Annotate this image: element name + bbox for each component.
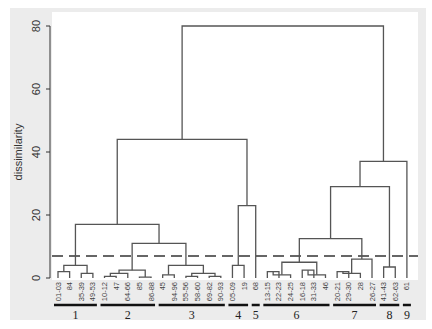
svg-text:85: 85 [135,282,144,290]
svg-text:47: 47 [112,282,121,290]
svg-text:20: 20 [30,209,42,221]
svg-text:20-21: 20-21 [333,282,342,301]
svg-text:46: 46 [321,282,330,290]
svg-text:55-56: 55-56 [181,282,190,301]
svg-text:40: 40 [30,146,42,158]
svg-text:58-60: 58-60 [193,282,202,301]
svg-text:35-39: 35-39 [77,282,86,301]
svg-text:84: 84 [65,282,74,290]
svg-text:28: 28 [356,282,365,290]
svg-text:1: 1 [72,308,78,322]
plot-panel [52,12,418,280]
svg-text:41-43: 41-43 [379,282,388,301]
svg-text:10-12: 10-12 [100,282,109,301]
svg-text:19: 19 [240,282,249,290]
svg-text:6: 6 [293,308,299,322]
svg-text:0: 0 [30,275,42,281]
svg-text:22-23: 22-23 [274,282,283,301]
svg-text:49-53: 49-53 [88,282,97,301]
svg-text:61: 61 [402,282,411,290]
svg-text:4: 4 [235,308,241,322]
svg-text:26-27: 26-27 [368,282,377,301]
svg-text:7: 7 [352,308,358,322]
svg-text:5: 5 [253,308,259,322]
svg-text:9: 9 [404,308,410,322]
svg-text:86-88: 86-88 [147,282,156,301]
svg-text:24-25: 24-25 [286,282,295,301]
svg-text:29-30: 29-30 [344,282,353,301]
svg-text:90-93: 90-93 [216,282,225,301]
svg-text:8: 8 [386,308,392,322]
svg-text:16-18: 16-18 [298,282,307,301]
svg-text:64-66: 64-66 [123,282,132,301]
svg-text:31-33: 31-33 [309,282,318,301]
svg-text:80: 80 [30,20,42,32]
dendrogram-chart: 020406080 dissimilarity 01-038435-3949-5… [0,0,432,329]
y-axis-label: dissimilarity [12,123,24,180]
svg-text:dissimilarity: dissimilarity [12,123,24,180]
svg-text:05-09: 05-09 [228,282,237,301]
svg-text:13-15: 13-15 [263,282,272,301]
svg-text:69-82: 69-82 [205,282,214,301]
svg-text:01-03: 01-03 [54,282,63,301]
svg-text:60: 60 [30,83,42,95]
svg-text:62-63: 62-63 [391,282,400,301]
svg-text:45: 45 [158,282,167,290]
svg-text:68: 68 [251,282,260,290]
svg-text:2: 2 [125,308,131,322]
svg-text:94-96: 94-96 [170,282,179,301]
svg-text:3: 3 [189,308,195,322]
